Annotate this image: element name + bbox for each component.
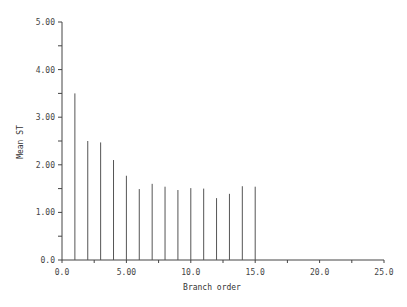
y-tick-label: 5.00 xyxy=(36,18,55,27)
x-tick-label: 5.00 xyxy=(117,268,136,277)
y-tick-label: 3.00 xyxy=(36,113,55,122)
data-bars xyxy=(75,93,255,260)
bar-chart: 0.01.002.003.004.005.00 0.05.0010.015.02… xyxy=(0,0,407,307)
y-axis: 0.01.002.003.004.005.00 xyxy=(36,18,62,265)
x-axis-label: Branch order xyxy=(183,283,241,292)
y-tick-label: 4.00 xyxy=(36,66,55,75)
y-axis-label: Mean ST xyxy=(16,125,25,159)
x-tick-label: 15.0 xyxy=(246,268,265,277)
y-tick-label: 1.00 xyxy=(36,208,55,217)
y-tick-label: 2.00 xyxy=(36,161,55,170)
y-tick-label: 0.0 xyxy=(41,256,56,265)
x-tick-label: 0.0 xyxy=(55,268,70,277)
x-tick-label: 25.0 xyxy=(374,268,393,277)
x-tick-label: 20.0 xyxy=(310,268,329,277)
x-axis: 0.05.0010.015.020.025.0 xyxy=(55,260,394,277)
x-tick-label: 10.0 xyxy=(181,268,200,277)
